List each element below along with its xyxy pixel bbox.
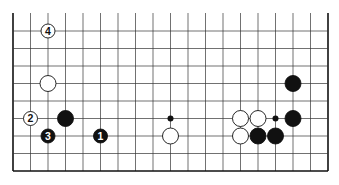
black-stone[interactable] [250,128,266,144]
move-number-label: 1 [98,130,104,142]
black-stone[interactable] [268,128,284,144]
move-number-label: 2 [28,112,34,124]
white-stone[interactable] [163,128,179,144]
white-stone[interactable] [233,111,249,127]
white-stone[interactable] [40,76,56,92]
star-point [273,116,279,122]
black-stone[interactable] [58,111,74,127]
move-number-label: 3 [45,130,51,142]
star-point [168,116,174,122]
move-number-label: 4 [45,25,51,37]
white-stone[interactable] [250,111,266,127]
white-stone[interactable] [233,128,249,144]
black-stone[interactable] [285,111,301,127]
go-board: 4231 [0,0,339,185]
black-stone[interactable] [285,76,301,92]
